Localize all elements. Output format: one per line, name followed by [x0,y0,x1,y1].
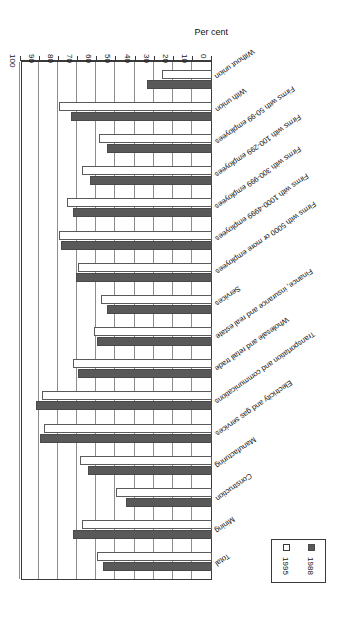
legend-item: 1995 [277,544,295,578]
axis-tick [77,56,78,61]
bar-1988 [76,273,212,282]
bar-group [21,481,212,513]
bar-group [21,192,212,224]
axis-tick-label: 60 [84,54,93,63]
legend-label: 1995 [274,557,298,575]
category-label: Firms with 100-299 employees [213,112,303,179]
bar-chart-figure: 0102030405060708090100 Per cent TotalMin… [0,0,360,637]
figure-rotation-container: 0102030405060708090100 Per cent TotalMin… [0,0,360,637]
axis-tick-label: 40 [123,54,132,63]
legend-swatch-open-square [283,544,290,551]
bar-1995 [94,327,212,336]
x-axis: 0102030405060708090100 [21,60,212,61]
category-label: Services [213,284,242,308]
axis-tick [116,56,117,61]
category-label: Without union [213,47,256,81]
axis-tick [173,56,174,61]
bar-1995 [42,391,212,400]
bar-group [21,224,212,256]
bar-group [21,417,212,449]
axis-tick [154,56,155,61]
bar-1988 [107,144,212,153]
bar-group [21,256,212,288]
plot-area-wrapper [21,61,212,580]
axis-tick-label: 100 [8,54,17,67]
axis-tick-label: 0 [199,54,208,58]
bar-1988 [126,498,212,507]
bar-1988 [61,241,212,250]
legend-swatch-filled-square [308,544,315,551]
bar-1988 [71,112,212,121]
bar-1995 [67,198,212,207]
bar-1995 [99,134,212,143]
bar-1995 [78,263,212,272]
bar-group [21,63,212,95]
category-label: Firms with 5000 or more employees [213,199,317,276]
legend-label: 1988 [299,557,323,575]
bar-1995 [59,102,212,111]
axis-tick-label: 50 [104,54,113,63]
axis-tick [96,56,97,61]
axis-tick [58,56,59,61]
axis-tick [20,56,21,61]
bar-1988 [107,305,212,314]
bar-1995 [82,520,212,529]
category-label: Firms with 1000-4999 employees [213,172,310,244]
category-label: Wholesale and retail trade [213,315,290,373]
bar-1995 [73,359,212,368]
bar-1995 [59,231,212,240]
bar-group [21,127,212,159]
bar-group [21,321,212,353]
axis-tick [39,56,40,61]
axis-tick-label: 30 [142,54,151,63]
bar-group [21,449,212,481]
x-axis-title: Per cent [194,27,228,37]
bar-1995 [162,70,212,79]
bar-1988 [78,369,212,378]
axis-tick [135,56,136,61]
bar-1995 [117,488,213,497]
bar-group [21,160,212,192]
chart-legend: 19881995 [271,539,326,583]
axis-tick-label: 10 [180,54,189,63]
bar-1995 [80,456,212,465]
bar-1988 [40,434,212,443]
bar-1988 [103,562,212,571]
bar-group [21,514,212,546]
category-axis-labels: TotalMiningConstructionManufacturingElec… [212,61,360,580]
category-label: Electricity and gas services [213,378,293,438]
category-label: Mining [213,515,236,535]
bar-1988 [36,401,212,410]
category-label: Construction [213,471,253,503]
gridline [19,62,20,579]
axis-tick-label: 20 [161,54,170,63]
category-label: Total [213,551,231,568]
legend-item: 1988 [302,544,320,578]
bar-group [21,95,212,127]
bar-1988 [147,80,212,89]
bar-group [21,288,212,320]
bar-1995 [101,295,212,304]
bar-1995 [82,166,212,175]
bar-1988 [73,530,212,539]
axis-tick-label: 90 [27,54,36,63]
bar-1988 [73,208,212,217]
bar-group [21,353,212,385]
category-label: Manufacturing [213,436,258,471]
axis-tick [192,56,193,61]
bar-1995 [44,424,212,433]
axis-tick-label: 80 [46,54,55,63]
bar-1995 [97,552,212,561]
bar-group [21,385,212,417]
category-label: Firms with 50-99 employees [213,84,296,146]
bar-1988 [97,337,212,346]
bar-rows [21,61,212,580]
bar-1988 [90,176,212,185]
category-label: Firms with 300-999 employees [213,144,303,211]
axis-tick-label: 70 [65,54,74,63]
bar-group [21,546,212,578]
bar-1988 [88,466,212,475]
category-label: With union [213,86,248,114]
